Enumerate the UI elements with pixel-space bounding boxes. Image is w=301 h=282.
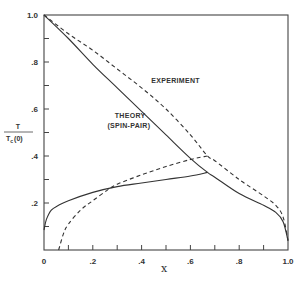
x-tick-label: 1.0 bbox=[282, 257, 294, 266]
axis-ticks: 0.2.4.6.81.0.2.4.6.81.0 bbox=[27, 11, 294, 266]
plot-border bbox=[44, 15, 288, 250]
experiment-label: EXPERIMENT bbox=[151, 77, 200, 84]
y-tick-label: .8 bbox=[31, 58, 38, 67]
x-axis-title: x bbox=[161, 262, 168, 275]
theory-label: THEORY bbox=[115, 112, 146, 119]
curve-annotations: EXPERIMENTTHEORY(SPIN-PAIR) bbox=[107, 77, 200, 130]
experiment-curve bbox=[59, 156, 208, 250]
x-tick-label: 0 bbox=[42, 257, 47, 266]
data-series bbox=[44, 15, 288, 250]
y-tick-label: 1.0 bbox=[27, 11, 39, 20]
y-axis-title-numerator: T bbox=[16, 123, 21, 130]
x-tick-label: .8 bbox=[236, 257, 243, 266]
x-tick-label: .6 bbox=[187, 257, 194, 266]
x-tick-label: .2 bbox=[89, 257, 96, 266]
spin-pair-label: (SPIN-PAIR) bbox=[107, 122, 150, 130]
axis-labels: x T Tc(0) bbox=[4, 123, 168, 275]
experiment-curve bbox=[44, 15, 288, 241]
x-tick-label: .4 bbox=[138, 257, 145, 266]
y-tick-label: .2 bbox=[31, 199, 38, 208]
plot-frame bbox=[44, 15, 288, 250]
y-axis-title: T Tc(0) bbox=[4, 123, 33, 144]
theory-curve bbox=[44, 15, 288, 241]
phase-diagram-chart: 0.2.4.6.81.0.2.4.6.81.0 x T Tc(0) EXPERI… bbox=[0, 0, 301, 282]
y-axis-title-denominator: Tc(0) bbox=[6, 135, 23, 144]
y-tick-label: .6 bbox=[31, 105, 38, 114]
y-tick-label: .4 bbox=[31, 152, 38, 161]
